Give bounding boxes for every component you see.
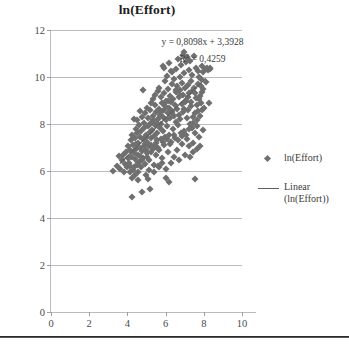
trendline	[51, 30, 242, 312]
trendline-annotation: y = 0,8098x + 3,3928 R2 = 0,4259	[140, 36, 265, 66]
regression-equation: y = 0,8098x + 3,3928	[140, 36, 265, 49]
x-tick-label-6: 6	[163, 318, 168, 329]
legend-item-trendline[interactable]: Linear (ln(Effort))	[258, 181, 346, 206]
plot-area: 024681012 0246810	[51, 30, 242, 312]
x-tick-mark-10	[242, 312, 243, 316]
x-tick-label-10: 10	[237, 318, 248, 329]
chart-figure: ln(Effort) 024681012 0246810 y = 0,8098x…	[0, 0, 349, 349]
x-tick-label-8: 8	[201, 318, 206, 329]
r-squared-text: R2 = 0,4259	[140, 49, 265, 66]
x-axis-line	[50, 312, 256, 313]
x-tick-label-2: 2	[87, 318, 92, 329]
y-tick-label-2: 2	[40, 260, 45, 271]
x-tick-mark-4	[127, 312, 128, 316]
legend: ln(Effort) Linear (ln(Effort))	[258, 152, 346, 222]
y-tick-label-4: 4	[40, 213, 45, 224]
page-divider	[0, 336, 349, 338]
page-title: ln(Effort)	[51, 2, 243, 18]
diamond-marker-icon	[258, 152, 280, 164]
y-tick-label-8: 8	[40, 119, 45, 130]
x-tick-mark-8	[204, 312, 205, 316]
r-squared-value: = 0,4259	[189, 54, 225, 64]
y-tick-label-6: 6	[40, 166, 45, 177]
legend-item-series[interactable]: ln(Effort)	[258, 152, 346, 165]
y-tick-label-0: 0	[40, 307, 45, 318]
y-tick-label-12: 12	[35, 25, 46, 36]
x-tick-mark-2	[89, 312, 90, 316]
x-tick-label-4: 4	[125, 318, 130, 329]
x-tick-mark-6	[166, 312, 167, 316]
legend-label-trendline: Linear (ln(Effort))	[280, 181, 346, 206]
y-tick-label-10: 10	[35, 72, 46, 83]
x-tick-label-0: 0	[48, 318, 53, 329]
line-marker-icon	[258, 181, 280, 193]
x-tick-mark-0	[51, 312, 52, 316]
legend-label-series: ln(Effort)	[280, 152, 322, 165]
